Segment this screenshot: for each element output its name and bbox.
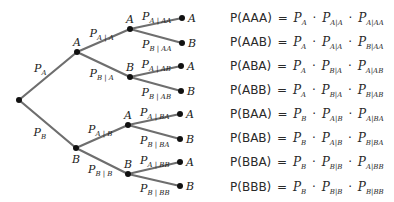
branch-BBB xyxy=(128,174,180,186)
equation-paab: P(AAB) = PA · PA|A · PB|AA xyxy=(230,35,384,54)
probability-term: PB|B xyxy=(322,155,343,169)
probability-tree: PAPBPA | APB | APA | BPB | BPA | AAPB | … xyxy=(0,0,220,202)
equals-sign: = xyxy=(271,131,293,145)
dot-operator: · xyxy=(342,180,357,194)
equation-pbbb: P(BBB) = PB · PB|B · PB|BB xyxy=(230,180,384,199)
node-BBB xyxy=(177,183,183,189)
branch-label-BAA: PA | BA xyxy=(139,106,169,121)
probability-term: PA|BA xyxy=(358,107,384,121)
dot-operator: · xyxy=(306,59,321,73)
node-BB xyxy=(125,171,131,177)
node-BA xyxy=(125,122,131,128)
probability-term: PB xyxy=(293,131,306,145)
dot-operator: · xyxy=(306,35,321,49)
probability-term: PB|A xyxy=(322,83,343,97)
equation-paba: P(ABA) = PA · PB|A · PA|AB xyxy=(230,59,383,78)
probability-term: PA|A xyxy=(322,35,343,49)
probability-term: PA|AB xyxy=(358,59,384,73)
branch-ABB xyxy=(130,77,181,91)
node-label-BA: A xyxy=(123,109,132,122)
probability-term: PB|AA xyxy=(358,35,384,49)
equation-lhs: P(BBA) xyxy=(230,155,271,169)
equals-sign: = xyxy=(272,11,294,25)
node-label-AAA: A xyxy=(187,12,196,25)
branch-label-BBB: PB | BB xyxy=(139,182,170,197)
probability-term: PA|B xyxy=(322,107,343,121)
probability-term: PA|A xyxy=(322,11,343,25)
equation-paaa: P(AAA) = PA · PA|A · PA|AA xyxy=(230,11,384,30)
node-A xyxy=(74,49,80,55)
node-label-ABA: A xyxy=(186,60,195,73)
probability-term: PB|BA xyxy=(358,131,384,145)
branch-label-BBA: PA | BB xyxy=(139,154,170,169)
branch-label-AAA: PA | AA xyxy=(141,10,171,25)
equals-sign: = xyxy=(272,35,294,49)
probability-term: PB|B xyxy=(322,180,343,194)
branch-label-BAB: PB | BA xyxy=(139,134,170,149)
node-label-AA: A xyxy=(125,13,134,26)
dot-operator: · xyxy=(342,155,357,169)
equals-sign: = xyxy=(271,83,293,97)
dot-operator: · xyxy=(343,11,358,25)
dot-operator: · xyxy=(342,83,357,97)
probability-term: PB xyxy=(293,107,306,121)
branch-labels: PAPBPA | APB | APA | BPB | BPA | AAPB | … xyxy=(33,10,172,198)
branch-label-BA: PA | B xyxy=(87,123,112,138)
equation-lhs: P(ABA) xyxy=(230,59,271,73)
node-label-AAB: B xyxy=(187,37,196,50)
dot-operator: · xyxy=(342,131,357,145)
branch-AAB xyxy=(130,29,182,43)
equation-lhs: P(BAA) xyxy=(230,107,272,121)
dot-operator: · xyxy=(342,59,357,73)
node-BAB xyxy=(177,136,183,142)
probability-term: PA xyxy=(293,35,306,49)
node-label-BB: B xyxy=(123,158,132,171)
probability-term: PA xyxy=(293,59,306,73)
probability-term: PB|AB xyxy=(358,83,384,97)
node-ABA xyxy=(178,63,184,69)
node-AAB xyxy=(179,40,185,46)
equation-pbba: P(BBA) = PB · PB|B · PA|BB xyxy=(230,155,384,174)
dot-operator: · xyxy=(306,131,321,145)
node-label-ABB: B xyxy=(186,85,195,98)
dot-operator: · xyxy=(307,11,322,25)
branch-label-B: PB xyxy=(33,126,47,141)
probability-term: PA|B xyxy=(322,131,343,145)
branch-B xyxy=(19,100,76,148)
node-AAA xyxy=(179,15,185,21)
branch-label-AA: PA | A xyxy=(89,27,114,42)
node-label-A: A xyxy=(72,36,81,49)
node-label-BBB: B xyxy=(185,180,194,193)
branch-label-A: PA xyxy=(33,62,46,77)
probability-term: PA|AA xyxy=(358,11,384,25)
dot-operator: · xyxy=(306,180,321,194)
node-AB xyxy=(127,74,133,80)
node-B xyxy=(73,145,79,151)
dot-operator: · xyxy=(343,107,358,121)
branch-label-ABB: PB | AB xyxy=(141,86,172,101)
branch-A xyxy=(19,52,77,100)
equation-lhs: P(BAB) xyxy=(230,131,271,145)
node-AA xyxy=(127,26,133,32)
node-label-B: B xyxy=(71,153,80,166)
equals-sign: = xyxy=(271,155,293,169)
equation-lhs: P(AAB) xyxy=(230,35,272,49)
equation-pbab: P(BAB) = PB · PA|B · PB|BA xyxy=(230,131,384,150)
probability-term: PA xyxy=(294,11,307,25)
dot-operator: · xyxy=(306,155,321,169)
probability-term: PB xyxy=(293,155,306,169)
equation-lhs: P(AAA) xyxy=(230,11,272,25)
node-label-BAA: A xyxy=(185,108,194,121)
node-label-BAB: B xyxy=(185,133,194,146)
node-root xyxy=(16,97,22,103)
branch-label-AAB: PB | AA xyxy=(141,38,171,53)
node-label-BBA: A xyxy=(185,156,194,169)
equation-pbaa: P(BAA) = PB · PA|B · PA|BA xyxy=(230,107,384,126)
node-ABB xyxy=(178,88,184,94)
equation-pabb: P(ABB) = PA · PB|A · PB|AB xyxy=(230,83,383,102)
equals-sign: = xyxy=(271,59,293,73)
node-BAA xyxy=(177,111,183,117)
equals-sign: = xyxy=(271,180,293,194)
probability-term: PB xyxy=(293,180,306,194)
dot-operator: · xyxy=(342,35,357,49)
